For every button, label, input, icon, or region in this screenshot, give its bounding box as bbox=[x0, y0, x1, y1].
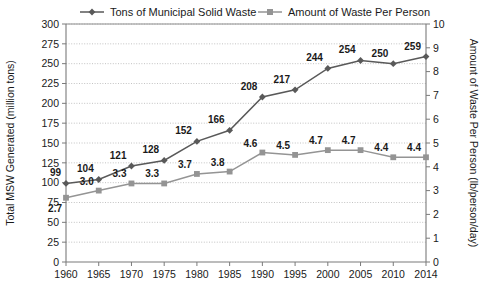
right-tick-label: 7 bbox=[433, 89, 439, 101]
x-tick-label: 1980 bbox=[185, 268, 209, 280]
data-point-label: 104 bbox=[77, 163, 94, 174]
left-tick-label: 275 bbox=[41, 38, 59, 50]
left-tick-label: 200 bbox=[41, 97, 59, 109]
chart-legend: Tons of Municipal Solid WasteAmount of W… bbox=[80, 6, 430, 18]
x-tick-label: 1990 bbox=[251, 268, 275, 280]
left-tick-label: 150 bbox=[41, 137, 59, 149]
legend-label-series-1: Tons of Municipal Solid Waste bbox=[110, 6, 256, 18]
left-tick-label: 300 bbox=[41, 18, 59, 30]
data-point-marker bbox=[194, 171, 200, 177]
data-point-marker bbox=[63, 180, 70, 187]
right-tick-label: 6 bbox=[433, 113, 439, 125]
left-tick-label: 175 bbox=[41, 117, 59, 129]
left-tick-label: 50 bbox=[47, 216, 59, 228]
x-tick-label: 2010 bbox=[382, 268, 406, 280]
data-point-marker bbox=[63, 195, 69, 201]
data-point-label: 166 bbox=[208, 114, 225, 125]
data-point-label: 152 bbox=[175, 125, 192, 136]
left-tick-label: 0 bbox=[53, 256, 59, 268]
right-tick-label: 10 bbox=[433, 18, 445, 30]
data-point-marker bbox=[161, 181, 167, 187]
data-point-marker bbox=[96, 188, 102, 194]
data-point-marker bbox=[358, 147, 364, 153]
data-point-marker bbox=[357, 57, 364, 64]
x-tick-label: 1975 bbox=[153, 268, 177, 280]
x-tick-label: 1995 bbox=[283, 268, 307, 280]
right-tick-label: 0 bbox=[433, 256, 439, 268]
data-point-label: 254 bbox=[339, 44, 356, 55]
left-axis-ticks: 0255075100125150175200225250275300 bbox=[41, 18, 66, 268]
legend-marker-series-2 bbox=[267, 9, 273, 15]
data-point-label: 4.4 bbox=[374, 142, 388, 153]
right-tick-label: 3 bbox=[433, 184, 439, 196]
right-tick-label: 2 bbox=[433, 208, 439, 220]
line-chart: 0255075100125150175200225250275300 01234… bbox=[0, 0, 484, 291]
data-point-label: 3.8 bbox=[211, 157, 225, 168]
data-point-marker bbox=[95, 176, 102, 183]
data-point-marker bbox=[390, 154, 396, 160]
left-axis-title: Total MSW Generated (million tons) bbox=[4, 60, 16, 226]
data-point-label: 244 bbox=[306, 52, 323, 63]
data-point-marker bbox=[325, 147, 331, 153]
data-point-marker bbox=[292, 152, 298, 158]
data-point-label: 2.7 bbox=[48, 203, 62, 214]
x-tick-label: 1965 bbox=[87, 268, 111, 280]
data-point-marker bbox=[423, 154, 429, 160]
left-tick-label: 225 bbox=[41, 77, 59, 89]
x-tick-label: 2014 bbox=[414, 268, 438, 280]
data-point-label: 4.7 bbox=[342, 135, 356, 146]
series-line bbox=[66, 57, 426, 184]
right-tick-label: 8 bbox=[433, 65, 439, 77]
data-point-marker bbox=[390, 60, 397, 67]
data-point-labels: 991041211281521662082172442542502592.73.… bbox=[48, 41, 421, 214]
right-axis-ticks: 012345678910 bbox=[426, 18, 445, 268]
data-point-marker bbox=[194, 138, 201, 145]
x-tick-label: 1960 bbox=[54, 268, 78, 280]
right-tick-label: 4 bbox=[433, 161, 439, 173]
right-tick-label: 5 bbox=[433, 137, 439, 149]
data-point-label: 128 bbox=[142, 144, 159, 155]
data-point-marker bbox=[128, 163, 135, 170]
x-tick-label: 2000 bbox=[316, 268, 340, 280]
data-point-marker bbox=[161, 157, 168, 164]
data-point-label: 3.3 bbox=[145, 168, 159, 179]
data-point-label: 208 bbox=[241, 81, 258, 92]
right-tick-label: 9 bbox=[433, 42, 439, 54]
data-point-label: 121 bbox=[110, 150, 127, 161]
data-point-marker bbox=[423, 53, 430, 60]
right-axis-title: Amount of Waste Per Person (lb/person/da… bbox=[468, 39, 480, 248]
data-point-label: 4.5 bbox=[276, 140, 290, 151]
x-tick-label: 1970 bbox=[120, 268, 144, 280]
data-point-label: 217 bbox=[273, 74, 290, 85]
data-point-label: 250 bbox=[372, 48, 389, 59]
data-point-label: 4.7 bbox=[309, 135, 323, 146]
data-point-label: 4.6 bbox=[243, 138, 257, 149]
legend-label-series-2: Amount of Waste Per Person bbox=[288, 6, 430, 18]
data-point-label: 3.0 bbox=[80, 176, 94, 187]
data-point-label: 259 bbox=[404, 41, 421, 52]
data-point-marker bbox=[129, 181, 135, 187]
x-tick-label: 2005 bbox=[349, 268, 373, 280]
left-tick-label: 25 bbox=[47, 236, 59, 248]
x-tick-label: 1985 bbox=[218, 268, 242, 280]
left-tick-label: 250 bbox=[41, 57, 59, 69]
x-axis-ticks: 1960196519701975198019851990199520002005… bbox=[54, 262, 438, 280]
data-point-marker bbox=[259, 150, 265, 156]
data-point-label: 3.3 bbox=[113, 168, 127, 179]
data-point-label: 3.7 bbox=[178, 159, 192, 170]
data-point-label: 99 bbox=[50, 167, 62, 178]
chart-container: 0255075100125150175200225250275300 01234… bbox=[0, 0, 484, 291]
data-point-label: 4.4 bbox=[407, 142, 421, 153]
data-point-marker bbox=[227, 169, 233, 175]
right-tick-label: 1 bbox=[433, 232, 439, 244]
legend-marker-series-1 bbox=[89, 9, 96, 16]
